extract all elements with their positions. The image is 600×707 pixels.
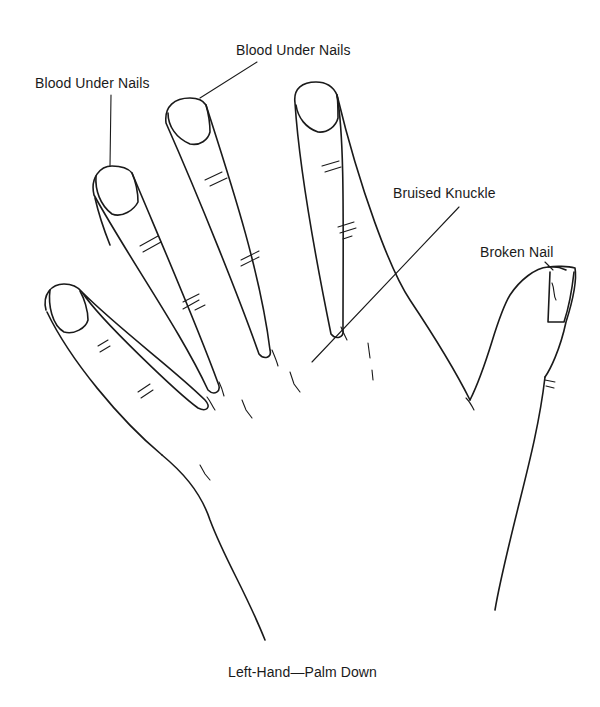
hand-illustration [0,0,600,707]
thumb [466,266,576,410]
label-bruised-knuckle: Bruised Knuckle [393,185,496,201]
hand-outline [162,95,545,640]
ring-finger [93,166,224,396]
label-blood-under-nails-middle: Blood Under Nails [236,42,351,58]
hand-injury-diagram: Blood Under Nails Blood Under Nails Brui… [0,0,600,707]
leader-knuckle [312,207,459,362]
leader-lines [110,62,553,362]
label-blood-under-nails-ring: Blood Under Nails [35,75,150,91]
skin-marks [200,343,373,480]
middle-finger [166,98,278,366]
leader-middle-nail [200,62,257,98]
figure-caption: Left-Hand—Palm Down [228,664,377,680]
leader-ring-nail [110,95,111,166]
label-broken-nail: Broken Nail [480,244,553,260]
index-finger [295,82,356,340]
